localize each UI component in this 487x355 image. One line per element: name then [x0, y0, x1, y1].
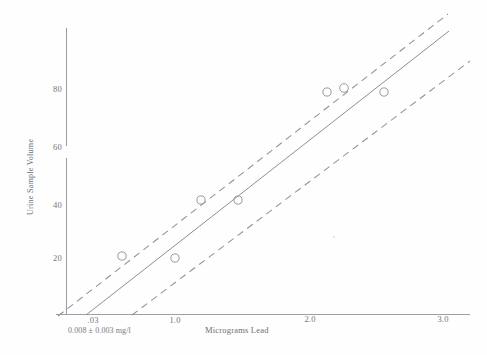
- y-tick-label-80: 80: [40, 84, 62, 94]
- y-tick-label-40: 40: [40, 200, 62, 210]
- chart-figure: 80 60 40 20 .03 1.0 2.0 3.0 Urine Sample…: [0, 0, 487, 355]
- scan-speck: [333, 236, 335, 238]
- data-point: [340, 84, 349, 93]
- y-tick-label-20: 20: [40, 253, 62, 263]
- data-point: [118, 252, 126, 260]
- lower-confidence-bound-line: [132, 61, 470, 315]
- x-tick-label-3-0: 3.0: [423, 314, 463, 324]
- data-point: [323, 88, 331, 96]
- data-point: [380, 88, 388, 96]
- regression-line: [86, 31, 449, 315]
- concentration-annotation: 0.008 ± 0.003 mg/l: [68, 326, 131, 335]
- x-tick-label-1-0: 1.0: [155, 315, 195, 325]
- x-axis-title: Micrograms Lead: [205, 325, 269, 335]
- x-tick-label-2-0: 2.0: [290, 314, 330, 324]
- data-point: [197, 196, 205, 204]
- plot-canvas: [0, 0, 487, 355]
- data-point: [171, 254, 179, 262]
- x-tick-label-03: .03: [73, 315, 113, 325]
- upper-confidence-bound-line: [58, 14, 448, 316]
- y-axis-title: Urine Sample Volume: [26, 139, 35, 215]
- y-tick-label-60: 60: [40, 142, 62, 152]
- data-point: [234, 196, 242, 204]
